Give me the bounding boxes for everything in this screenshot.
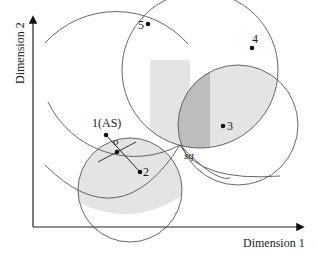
arc-lower-right-1 [180, 145, 280, 177]
label-sq: sq [184, 149, 194, 161]
point-5 [146, 22, 151, 27]
circle-large-left [45, 12, 188, 44]
point-2 [138, 170, 143, 175]
label-point-2: 2 [143, 165, 149, 179]
point-1 [104, 133, 109, 138]
x-axis-label: Dimension 1 [243, 236, 305, 250]
point-o [115, 150, 120, 155]
label-point-3: 3 [227, 119, 233, 133]
label-point-o: o [113, 135, 119, 147]
diagram-canvas: 1(AS) o 2 3 4 5 sq Dimension 1 Dimension… [0, 0, 318, 257]
point-4 [250, 46, 255, 51]
label-point-4: 4 [252, 32, 258, 46]
point-3 [221, 124, 226, 129]
label-point-1: 1(AS) [92, 116, 121, 130]
y-axis-label: Dimension 2 [13, 22, 27, 84]
label-point-5: 5 [138, 18, 144, 32]
